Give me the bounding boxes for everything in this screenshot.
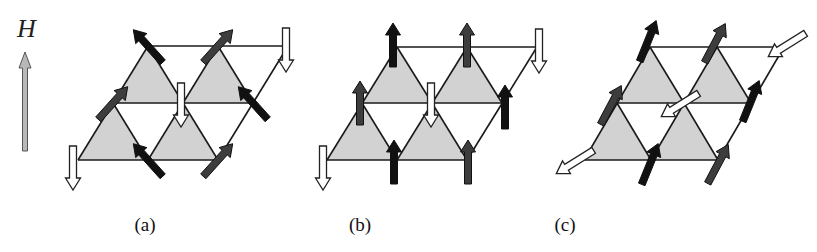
spin-arrow-icon	[66, 146, 81, 190]
panel-a	[66, 28, 294, 190]
spin-arrow-icon	[316, 146, 331, 190]
spin-arrow-icon	[768, 30, 807, 56]
field-arrow-icon	[19, 52, 31, 151]
spin-arrow-icon	[279, 28, 294, 72]
panel-a-label: (a)	[134, 214, 155, 236]
spin-arrow-icon	[461, 140, 476, 184]
spin-arrow-icon	[238, 87, 270, 122]
diagram-canvas	[0, 0, 817, 252]
panel-c-label: (c)	[554, 214, 575, 236]
panel-b-label: (b)	[349, 214, 371, 236]
kagome-spin-diagram: H (a) (b) (c)	[0, 0, 817, 252]
shaded-triangle	[651, 103, 718, 160]
shaded-triangle	[617, 47, 684, 103]
field-h-label: H	[17, 14, 36, 44]
panel-b	[316, 23, 547, 190]
panel-c	[556, 21, 807, 186]
